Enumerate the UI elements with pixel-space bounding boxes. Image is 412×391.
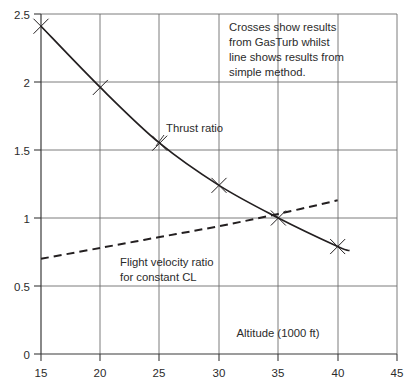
x-tick-label-45: 45 [391, 367, 404, 379]
chart-background [0, 0, 412, 391]
note-line-1: Crosses show results [229, 21, 337, 33]
x-tick-label-25: 25 [153, 367, 166, 379]
x-tick-label-40: 40 [332, 367, 345, 379]
thrust-ratio-chart: 2.5 2 1.5 1 0.5 0 15 20 25 30 35 40 45 C… [0, 0, 412, 391]
note-line-4: simple method. [229, 66, 306, 78]
x-tick-label-30: 30 [213, 367, 226, 379]
flight-velocity-label-cl: CL [182, 271, 196, 283]
flight-velocity-label-line-2: for constant CL [120, 271, 197, 283]
y-tick-label-0.5: 0.5 [14, 281, 30, 293]
y-tick-label-0: 0 [24, 349, 30, 361]
y-tick-label-1.5: 1.5 [14, 145, 30, 157]
y-tick-label-1: 1 [24, 213, 30, 225]
x-tick-label-15: 15 [35, 367, 48, 379]
chart-container: 2.5 2 1.5 1 0.5 0 15 20 25 30 35 40 45 C… [0, 0, 412, 391]
note-line-3: line shows results from [229, 51, 344, 63]
x-tick-label-35: 35 [272, 367, 285, 379]
note-line-2: from GasTurb whilst [229, 36, 331, 48]
y-tick-label-2.5: 2.5 [14, 9, 30, 21]
y-tick-label-2: 2 [24, 77, 30, 89]
flight-velocity-label-prefix: for constant [120, 271, 182, 283]
x-tick-label-20: 20 [94, 367, 107, 379]
thrust-ratio-label: Thrust ratio [166, 122, 223, 134]
x-axis-title: Altitude (1000 ft) [237, 327, 320, 339]
flight-velocity-label-line-1: Flight velocity ratio [120, 256, 214, 268]
